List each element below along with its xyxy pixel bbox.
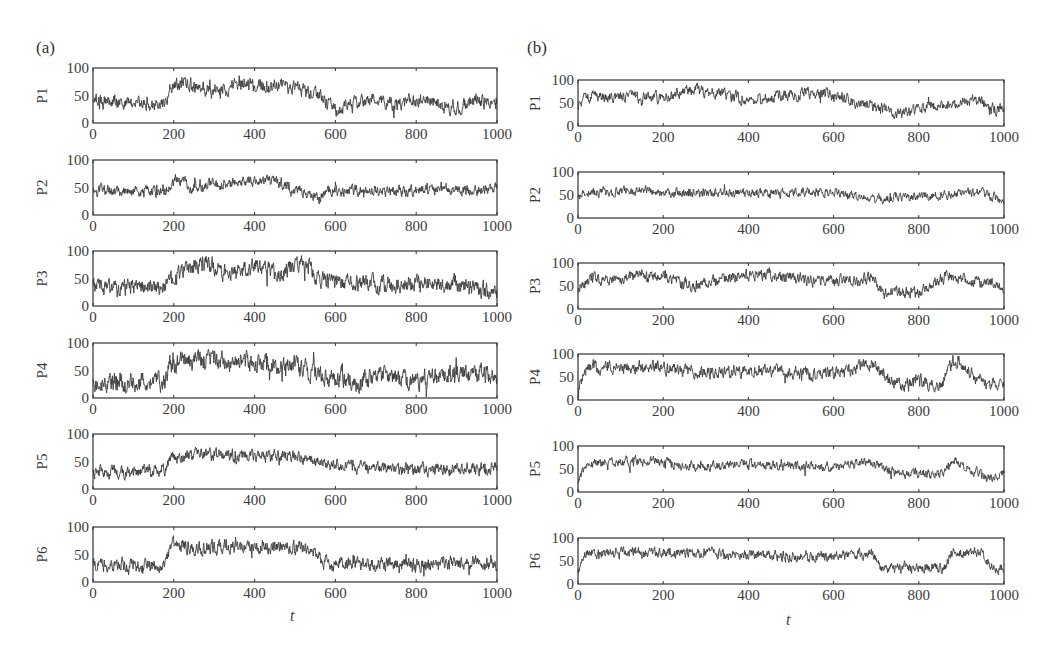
- x-tick-label: 600: [324, 218, 347, 234]
- x-tick-label: 800: [405, 401, 428, 417]
- x-tick-label: 400: [243, 309, 266, 325]
- x-tick-label: 800: [908, 221, 931, 237]
- subplot-a-p5: 02004006008001000050100P5: [34, 426, 512, 508]
- y-tick-label: 50: [74, 454, 89, 470]
- y-axis-label: P6: [34, 546, 50, 562]
- x-tick-label: 800: [405, 492, 428, 508]
- y-tick-label: 50: [74, 271, 89, 287]
- x-tick-label: 400: [243, 401, 266, 417]
- y-axis-label: P2: [527, 187, 543, 203]
- x-tick-label: 0: [89, 218, 97, 234]
- y-axis-label: P6: [527, 553, 543, 569]
- y-tick-label: 0: [82, 574, 90, 590]
- y-tick-label: 50: [74, 547, 89, 563]
- x-tick-label: 600: [324, 492, 347, 508]
- y-tick-label: 0: [82, 481, 90, 497]
- x-tick-label: 400: [737, 403, 760, 419]
- series-line: [578, 355, 1004, 397]
- y-tick-label: 0: [567, 210, 575, 226]
- x-tick-label: 400: [243, 218, 266, 234]
- x-tick-label: 200: [652, 312, 675, 328]
- x-tick-label: 0: [574, 129, 582, 145]
- subplot-b-p1: 02004006008001000050100P1: [527, 72, 1019, 145]
- y-tick-label: 50: [74, 180, 89, 196]
- x-tick-label: 400: [243, 492, 266, 508]
- y-tick-label: 50: [559, 369, 574, 385]
- x-tick-label: 1000: [989, 221, 1019, 237]
- x-tick-label: 400: [737, 312, 760, 328]
- y-tick-label: 100: [67, 335, 90, 351]
- x-tick-label: 600: [324, 585, 347, 601]
- x-tick-label: 200: [163, 309, 186, 325]
- series-line: [93, 76, 497, 118]
- x-tick-label: 200: [163, 218, 186, 234]
- x-tick-label: 200: [652, 221, 675, 237]
- y-axis-label: P3: [527, 278, 543, 294]
- x-tick-label: 400: [737, 221, 760, 237]
- y-tick-label: 50: [559, 187, 574, 203]
- x-tick-label: 600: [324, 309, 347, 325]
- x-tick-label: 0: [89, 401, 97, 417]
- series-line: [93, 174, 497, 204]
- y-tick-label: 100: [67, 243, 90, 259]
- y-axis-label: P5: [34, 454, 50, 470]
- subplot-b-p2: 02004006008001000050100P2: [527, 164, 1019, 237]
- y-axis-label: P5: [527, 461, 543, 477]
- subplot-a-p3: 02004006008001000050100P3: [34, 243, 512, 325]
- y-tick-label: 0: [567, 392, 575, 408]
- x-tick-label: 1000: [989, 587, 1019, 603]
- x-tick-label: 800: [908, 312, 931, 328]
- y-tick-label: 100: [67, 60, 90, 76]
- subplot-a-p4: 02004006008001000050100P4: [34, 335, 512, 417]
- y-tick-label: 50: [559, 461, 574, 477]
- x-tick-label: 1000: [989, 495, 1019, 511]
- series-line: [578, 268, 1004, 299]
- x-tick-label: 200: [652, 403, 675, 419]
- y-tick-label: 0: [567, 301, 575, 317]
- x-tick-label: 800: [405, 585, 428, 601]
- x-tick-label: 400: [737, 129, 760, 145]
- subplot-b-p4: 02004006008001000050100P4: [527, 346, 1019, 419]
- x-tick-label: 800: [908, 403, 931, 419]
- subplot-a-p6: 02004006008001000050100P6: [34, 519, 512, 601]
- x-tick-label: 400: [243, 126, 266, 142]
- y-tick-label: 100: [67, 426, 90, 442]
- y-tick-label: 100: [552, 438, 575, 454]
- subplot-b-p5: 02004006008001000050100P5: [527, 438, 1019, 511]
- subplot-b-p3: 02004006008001000050100P3: [527, 255, 1019, 328]
- y-axis-label: P2: [34, 180, 50, 196]
- y-axis-label: P1: [34, 88, 50, 104]
- y-tick-label: 50: [74, 363, 89, 379]
- x-tick-label: 200: [652, 495, 675, 511]
- y-tick-label: 50: [559, 278, 574, 294]
- y-axis-label: P4: [527, 369, 543, 385]
- figure: (a) (b) t t 02004006008001000050100P1020…: [0, 0, 1053, 654]
- x-tick-label: 200: [163, 492, 186, 508]
- y-tick-label: 0: [82, 115, 90, 131]
- x-tick-label: 600: [822, 403, 845, 419]
- x-tick-label: 1000: [989, 403, 1019, 419]
- y-tick-label: 100: [552, 72, 575, 88]
- x-tick-label: 0: [574, 312, 582, 328]
- x-tick-label: 800: [908, 129, 931, 145]
- axes-box: [578, 446, 1004, 492]
- y-axis-label: P1: [527, 95, 543, 111]
- y-tick-label: 50: [559, 553, 574, 569]
- y-tick-label: 0: [82, 390, 90, 406]
- x-tick-label: 200: [652, 129, 675, 145]
- axes-box: [93, 68, 497, 123]
- y-tick-label: 100: [552, 530, 575, 546]
- x-tick-label: 800: [908, 495, 931, 511]
- y-tick-label: 100: [552, 346, 575, 362]
- x-tick-label: 200: [163, 585, 186, 601]
- x-tick-label: 600: [822, 221, 845, 237]
- y-tick-label: 100: [67, 519, 90, 535]
- x-tick-label: 1000: [989, 312, 1019, 328]
- x-tick-label: 1000: [482, 401, 512, 417]
- x-tick-label: 600: [822, 495, 845, 511]
- x-tick-label: 1000: [989, 129, 1019, 145]
- y-tick-label: 0: [567, 118, 575, 134]
- series-line: [93, 256, 497, 300]
- x-tick-label: 200: [163, 401, 186, 417]
- x-tick-label: 1000: [482, 126, 512, 142]
